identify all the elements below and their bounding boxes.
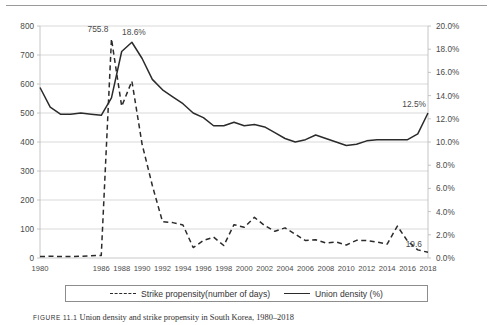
figure-page: 01002003004005006007008000.0%2.0%4.0%6.0… — [0, 0, 493, 325]
x-axis-tick-label: 1986 — [93, 264, 110, 273]
x-axis-tick-label: 2018 — [420, 264, 437, 273]
y-axis-left-tick-label: 300 — [20, 167, 34, 176]
x-axis-tick-label: 1988 — [113, 264, 130, 273]
chart-figure: 01002003004005006007008000.0%2.0%4.0%6.0… — [0, 10, 493, 282]
x-axis-tick-label: 2010 — [338, 264, 355, 273]
y-axis-left-tick-label: 100 — [20, 225, 34, 234]
x-axis-tick-label: 2016 — [399, 264, 416, 273]
x-axis-tick-label: 2014 — [379, 264, 396, 273]
chart-legend: Strike propensity(number of days) Union … — [65, 285, 428, 302]
y-axis-left-ticks: 0100200300400500600700800 — [20, 22, 40, 263]
y-axis-right-tick-label: 20.0% — [436, 22, 459, 31]
dashed-line-swatch-icon — [110, 293, 136, 294]
line-chart: 01002003004005006007008000.0%2.0%4.0%6.0… — [0, 10, 493, 282]
y-axis-left-tick-label: 800 — [20, 22, 34, 31]
data-point-label: 18.6% — [122, 27, 146, 37]
x-axis-tick-label: 1994 — [174, 264, 191, 273]
x-axis-tick-label: 1980 — [32, 264, 49, 273]
data-point-label: 12.5% — [402, 99, 426, 109]
legend-label-union-density: Union density (%) — [315, 289, 383, 299]
x-axis-tick-label: 1990 — [134, 264, 151, 273]
x-axis-tick-label: 2008 — [317, 264, 334, 273]
y-axis-right-tick-label: 4.0% — [436, 208, 455, 217]
y-axis-right-tick-label: 6.0% — [436, 184, 455, 193]
x-axis-tick-label: 2006 — [297, 264, 314, 273]
data-point-label: 19.6 — [406, 239, 423, 249]
y-axis-right-tick-label: 14.0% — [436, 92, 459, 101]
y-axis-left-tick-label: 400 — [20, 138, 34, 147]
y-axis-right-tick-label: 18.0% — [436, 45, 459, 54]
top-divider — [6, 5, 487, 6]
figure-caption-label: FIGURE 11.1 — [33, 314, 77, 321]
y-axis-right-tick-label: 2.0% — [436, 231, 455, 240]
y-axis-left-tick-label: 200 — [20, 196, 34, 205]
legend-item-strike-propensity: Strike propensity(number of days) — [110, 289, 270, 299]
y-axis-left-tick-label: 500 — [20, 109, 34, 118]
y-axis-right-tick-label: 10.0% — [436, 138, 459, 147]
x-axis-tick-label: 1998 — [215, 264, 232, 273]
y-axis-left-tick-label: 0 — [29, 254, 34, 263]
y-axis-right-tick-label: 12.0% — [436, 115, 459, 124]
legend-label-strike-propensity: Strike propensity(number of days) — [141, 289, 270, 299]
x-axis-tick-label: 2000 — [236, 264, 253, 273]
x-axis-tick-label: 2004 — [277, 264, 294, 273]
data-point-label: 755.8 — [88, 24, 109, 34]
y-axis-right-ticks: 0.0%2.0%4.0%6.0%8.0%10.0%12.0%14.0%16.0%… — [428, 22, 459, 263]
y-axis-left-tick-label: 600 — [20, 80, 34, 89]
solid-line-swatch-icon — [284, 293, 310, 295]
x-axis-tick-label: 2002 — [256, 264, 273, 273]
y-axis-right-tick-label: 0.0% — [436, 254, 455, 263]
legend-item-union-density: Union density (%) — [284, 289, 383, 299]
y-axis-right-tick-label: 16.0% — [436, 68, 459, 77]
x-axis-ticks: 1980198619881990199219941996199820002002… — [32, 264, 437, 273]
x-axis-tick-label: 1992 — [154, 264, 171, 273]
x-axis-tick-label: 1996 — [195, 264, 212, 273]
figure-caption: FIGURE 11.1 Union density and strike pro… — [33, 313, 473, 325]
figure-caption-text: Union density and strike propensity in S… — [80, 313, 294, 322]
y-axis-left-tick-label: 700 — [20, 51, 34, 60]
y-axis-right-tick-label: 8.0% — [436, 161, 455, 170]
x-axis-tick-label: 2012 — [358, 264, 375, 273]
